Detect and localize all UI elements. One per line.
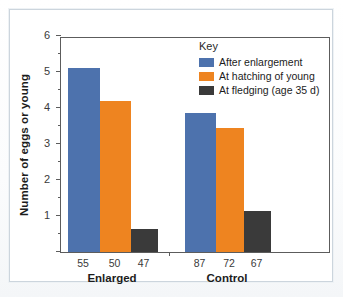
- y-tick-label: 4: [44, 102, 50, 113]
- sample-size-label: 55: [77, 257, 89, 269]
- sample-size-label: 50: [109, 257, 121, 269]
- y-tick-minor: [58, 125, 61, 126]
- legend-label-after-enlargement: After enlargement: [219, 57, 302, 68]
- legend-label-at-fledging: At fledging (age 35 d): [219, 85, 319, 96]
- bar: [216, 128, 244, 252]
- legend-item-after-enlargement: After enlargement: [199, 55, 319, 69]
- y-tick-minor: [58, 233, 61, 234]
- y-tick-major: 5: [56, 71, 61, 72]
- bar: [185, 113, 216, 252]
- bar: [244, 211, 271, 252]
- y-tick-minor: [58, 89, 61, 90]
- y-tick-label: 5: [44, 66, 50, 77]
- bar: [131, 229, 158, 252]
- legend-label-at-hatching: At hatching of young: [219, 71, 315, 82]
- bar: [100, 101, 131, 252]
- legend-item-at-fledging: At fledging (age 35 d): [199, 83, 319, 97]
- y-tick-minor: [58, 53, 61, 54]
- y-tick-major: 6: [56, 35, 61, 36]
- legend-swatch-after-enlargement: [199, 58, 214, 67]
- sample-size-label: 87: [194, 257, 206, 269]
- y-tick-label: 1: [44, 210, 50, 221]
- legend-swatch-at-hatching: [199, 72, 214, 81]
- sample-size-label: 67: [251, 257, 263, 269]
- x-axis-group-separator-tick: [169, 252, 170, 256]
- x-group-label: Control: [207, 272, 248, 284]
- y-tick-label: 2: [44, 174, 50, 185]
- y-tick-major: 4: [56, 107, 61, 108]
- y-tick-major: 1: [56, 215, 61, 216]
- x-group-label: Enlarged: [87, 272, 136, 284]
- legend-title: Key: [199, 41, 319, 52]
- sample-size-label: 72: [223, 257, 235, 269]
- y-tick-minor: [58, 197, 61, 198]
- figure-card: Number of eggs or young 123456 Key After…: [9, 9, 333, 282]
- y-tick-major: 2: [56, 179, 61, 180]
- legend-item-at-hatching: At hatching of young: [199, 69, 319, 83]
- chart-legend: Key After enlargement At hatching of you…: [199, 41, 319, 97]
- y-tick-major: [56, 251, 61, 252]
- y-tick-label: 3: [44, 138, 50, 149]
- y-tick-label: 6: [44, 30, 50, 41]
- bar: [68, 68, 100, 252]
- y-tick-minor: [58, 161, 61, 162]
- y-axis-title: Number of eggs or young: [18, 74, 30, 216]
- figure-container: Number of eggs or young 123456 Key After…: [0, 0, 343, 297]
- legend-swatch-at-fledging: [199, 86, 214, 95]
- y-tick-major: 3: [56, 143, 61, 144]
- sample-size-label: 47: [138, 257, 150, 269]
